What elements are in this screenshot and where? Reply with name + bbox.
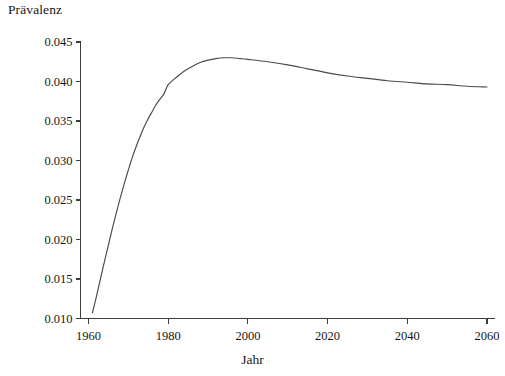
y-tick-label: 0.015 [44, 272, 72, 287]
axes [81, 42, 496, 319]
y-tick-label: 0.035 [44, 114, 72, 129]
y-tick-label: 0.025 [44, 193, 72, 208]
x-axis-ticks [88, 319, 487, 324]
prevalence-line [92, 58, 487, 313]
plot-area [0, 0, 505, 376]
y-tick-label: 0.020 [44, 232, 72, 247]
y-tick-label: 0.030 [44, 153, 72, 168]
x-tick-label: 1960 [76, 329, 101, 344]
chart-figure: Prävalenz Jahr 0.0100.0150.0200.0250.030… [0, 0, 505, 376]
x-tick-label: 1980 [156, 329, 181, 344]
y-tick-label: 0.010 [44, 311, 72, 326]
y-tick-label: 0.045 [44, 35, 72, 50]
x-tick-label: 2040 [395, 329, 420, 344]
x-tick-label: 2060 [475, 329, 500, 344]
x-tick-label: 2000 [235, 329, 260, 344]
y-tick-label: 0.040 [44, 74, 72, 89]
y-axis-ticks [76, 42, 81, 319]
x-tick-label: 2020 [315, 329, 340, 344]
